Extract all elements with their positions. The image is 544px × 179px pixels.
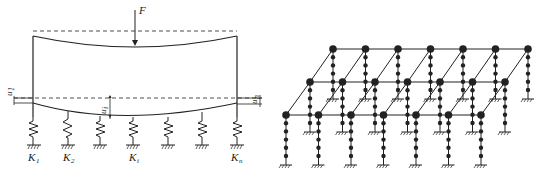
mass-node-small [438,88,442,92]
mass-node-small [405,88,409,92]
mass-node-small [316,129,320,133]
mass-node-small [414,137,418,141]
cross-beam [310,49,333,82]
spring-label-kn: K n [230,151,243,165]
svg-text:n: n [239,157,243,165]
mass-node-small [349,137,353,141]
mass-node-floor [469,78,477,86]
mass-node-floor [282,111,290,119]
mass-node-small [470,88,474,92]
mass-node-small [381,137,385,141]
mass-node-small [381,129,385,133]
mass-node-small [396,55,400,59]
mass-node-small [438,104,442,108]
mass-node-floor [436,78,444,86]
lumped-mass-frame-diagram [279,45,534,168]
mass-node-small [526,63,530,67]
mass-node-small [503,96,507,100]
mass-node-small [526,71,530,75]
mass-node-small [316,121,320,125]
mass-node-small [493,55,497,59]
mass-node-small [373,96,377,100]
cross-beam [286,82,310,115]
spring-4 [126,117,140,149]
mass-node-small [381,146,385,150]
mass-node-small [363,88,367,92]
mass-node-small [373,104,377,108]
mass-node-floor [445,111,453,119]
mass-node-small [405,121,409,125]
mass-node-small [316,154,320,158]
mass-node-floor [306,78,314,86]
un-label: u n [249,95,261,104]
mass-node-small [446,129,450,133]
mass-node-small [373,88,377,92]
mass-node-small [503,88,507,92]
force-arrow-head [132,40,138,46]
mass-node-floor [362,45,370,53]
mass-node-small [308,88,312,92]
mass-node-small [461,88,465,92]
mass-node-small [446,146,450,150]
mass-node-small [446,137,450,141]
mass-node-small [461,63,465,67]
mass-node-small [414,154,418,158]
spring-label-k2: K 2 [62,151,75,165]
mass-node-small [414,129,418,133]
mass-node-small [284,146,288,150]
mass-node-small [526,80,530,84]
ui-arrow-head-top [109,95,112,98]
mass-node-small [363,71,367,75]
mass-node-small [461,55,465,59]
mass-node-small [479,121,483,125]
mass-node-small [493,63,497,67]
mass-node-small [284,129,288,133]
mass-node-small [446,154,450,158]
svg-text:i: i [101,107,110,109]
spring-7 [230,117,244,149]
mass-node-small [308,104,312,108]
mass-node-floor [524,45,532,53]
cross-beam [343,49,366,82]
beam-on-springs-diagram [14,10,262,149]
mass-node-small [331,55,335,59]
mass-node-floor [459,45,467,53]
mass-node-small [349,146,353,150]
mass-node-floor [380,111,388,119]
spring-label-ki: K i [128,151,139,165]
mass-node-small [526,88,530,92]
mass-node-small [470,96,474,100]
mass-node-floor [427,45,435,53]
mass-node-small [284,121,288,125]
mass-node-small [308,96,312,100]
mass-node-small [363,55,367,59]
cross-beam [440,49,463,82]
mass-node-small [479,146,483,150]
mass-node-small [470,121,474,125]
svg-text:2: 2 [71,157,75,165]
mass-node-small [461,71,465,75]
mass-node-small [503,121,507,125]
mass-node-small [446,121,450,125]
mass-node-small [414,146,418,150]
mass-node-small [331,63,335,67]
u1-label: u 1 [4,87,16,96]
cross-beam [505,49,528,82]
mass-node-small [428,63,432,67]
mass-node-small [428,55,432,59]
cross-beam [375,49,398,82]
mass-node-floor [477,111,485,119]
svg-text:i: i [137,157,139,165]
mass-node-small [428,71,432,75]
mass-node-small [316,137,320,141]
mass-node-floor [339,78,347,86]
mass-node-small [349,121,353,125]
mass-node-small [340,121,344,125]
mass-node-floor [315,111,323,119]
force-label: F [138,4,146,16]
mass-node-small [284,137,288,141]
mass-node-small [363,63,367,67]
mass-node-floor [347,111,355,119]
spring-6 [195,112,209,149]
mass-node-small [331,71,335,75]
